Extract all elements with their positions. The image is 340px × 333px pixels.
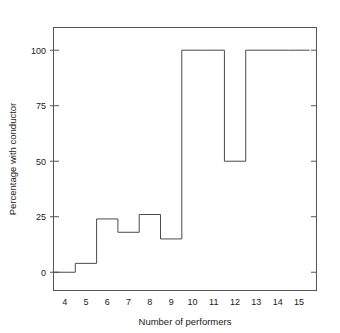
x-tick-label: 6 [105, 297, 110, 307]
x-tick-label: 12 [230, 297, 240, 307]
x-tick-label: 11 [209, 297, 218, 307]
x-tick-label: 10 [187, 297, 197, 307]
y-tick-label: 100 [31, 46, 46, 56]
y-tick-label: 0 [41, 268, 46, 278]
x-tick-label: 9 [169, 297, 174, 307]
plot-frame [54, 28, 317, 291]
y-axis-tick-labels: 1007550250 [31, 46, 46, 278]
x-tick-label: 13 [251, 297, 261, 307]
step-histogram-chart: 1007550250 456789101112131415 Percentage… [0, 0, 340, 333]
y-axis-title: Percentage with conductor [7, 103, 18, 215]
x-tick-label: 5 [83, 297, 88, 307]
x-tick-label: 4 [62, 297, 67, 307]
y-tick-label: 75 [36, 101, 46, 111]
x-axis-tick-labels: 456789101112131415 [62, 297, 304, 307]
x-tick-label: 14 [273, 297, 283, 307]
y-tick-label: 25 [36, 212, 46, 222]
y-axis-ticks [50, 50, 316, 272]
y-tick-label: 50 [36, 157, 46, 167]
x-tick-label: 8 [147, 297, 152, 307]
chart-figure: 1007550250 456789101112131415 Percentage… [0, 0, 340, 333]
x-axis-title: Number of performers [139, 316, 232, 327]
x-tick-label: 15 [294, 297, 304, 307]
step-series-line [54, 50, 310, 272]
x-tick-label: 7 [126, 297, 131, 307]
